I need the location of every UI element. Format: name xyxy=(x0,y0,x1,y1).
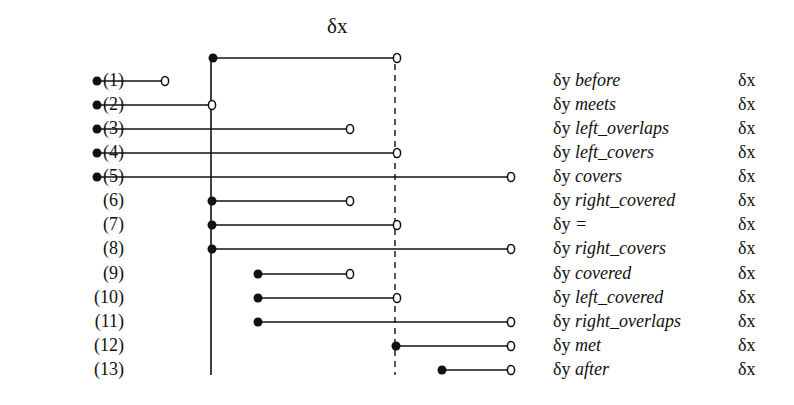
row-interval-closed-start-dot xyxy=(438,366,447,375)
interval-dx: δx xyxy=(738,214,755,234)
relation-operator: = xyxy=(575,214,587,234)
row-interval-closed-start-dot xyxy=(208,245,217,254)
row-interval-open-end-circle xyxy=(393,293,400,302)
row-interval-open-end-circle xyxy=(507,172,514,181)
interval-dy: δy xyxy=(553,94,570,114)
reference-interval-closed-start-dot xyxy=(209,54,218,63)
interval-dx: δx xyxy=(738,287,755,307)
interval-dx: δx xyxy=(738,118,755,138)
row-interval-open-end-circle xyxy=(507,365,514,374)
interval-dy: δy xyxy=(553,359,570,379)
relation-expression: δy left_covered xyxy=(553,287,663,307)
row-number: (1) xyxy=(40,70,124,90)
row-interval-closed-start-dot xyxy=(254,270,263,279)
relation-operator: right_covered xyxy=(575,190,675,210)
row-interval-open-end-circle xyxy=(507,317,514,326)
interval-dx: δx xyxy=(738,94,755,114)
row-interval-open-end-circle xyxy=(346,196,353,205)
relation-operator: right_overlaps xyxy=(575,311,681,331)
relation-operator: covers xyxy=(575,166,622,186)
row-interval-closed-start-dot xyxy=(208,221,217,230)
row-interval-open-end-circle xyxy=(346,124,353,133)
row-number: (2) xyxy=(40,94,124,114)
row-interval-closed-start-dot xyxy=(254,294,263,303)
relation-expression: δy met xyxy=(553,335,601,355)
relation-expression: δy covered xyxy=(553,263,631,283)
row-number: (11) xyxy=(40,311,124,331)
relation-operator: left_covers xyxy=(575,142,654,162)
relation-expression: δy before xyxy=(553,70,620,90)
reference-interval-title: δx xyxy=(327,14,347,39)
interval-dy: δy xyxy=(553,70,570,90)
relation-operator: left_covered xyxy=(575,287,663,307)
relation-operator: right_covers xyxy=(575,238,666,258)
interval-dx: δx xyxy=(738,335,755,355)
interval-dx: δx xyxy=(738,359,755,379)
relation-expression: δy meets xyxy=(553,94,616,114)
row-number: (3) xyxy=(40,118,124,138)
relation-expression: δy after xyxy=(553,359,609,379)
interval-dx: δx xyxy=(738,190,755,210)
row-interval-closed-start-dot xyxy=(254,318,263,327)
row-number: (4) xyxy=(40,142,124,162)
relation-expression: δy right_overlaps xyxy=(553,311,681,331)
relation-operator: after xyxy=(575,359,609,379)
row-interval-open-end-circle xyxy=(208,100,215,109)
row-number: (8) xyxy=(40,238,124,258)
interval-dx: δx xyxy=(738,238,755,258)
interval-dx: δx xyxy=(738,70,755,90)
interval-dy: δy xyxy=(553,263,570,283)
interval-dy: δy xyxy=(553,238,570,258)
interval-dy: δy xyxy=(553,335,570,355)
relation-operator: meets xyxy=(575,94,616,114)
interval-dx: δx xyxy=(738,166,755,186)
row-number: (9) xyxy=(40,263,124,283)
interval-dx: δx xyxy=(738,311,755,331)
interval-dx: δx xyxy=(738,142,755,162)
relation-expression: δy = xyxy=(553,214,587,234)
row-interval-open-end-circle xyxy=(507,341,514,350)
row-number: (5) xyxy=(40,166,124,186)
row-number: (6) xyxy=(40,190,124,210)
row-interval-open-end-circle xyxy=(346,269,353,278)
relation-expression: δy left_overlaps xyxy=(553,118,669,138)
relation-operator: met xyxy=(575,335,601,355)
interval-dy: δy xyxy=(553,190,570,210)
interval-dy: δy xyxy=(553,142,570,162)
row-interval-closed-start-dot xyxy=(208,197,217,206)
row-number: (10) xyxy=(40,287,124,307)
row-interval-open-end-circle xyxy=(161,76,168,85)
row-interval-closed-start-dot xyxy=(392,342,401,351)
relation-operator: before xyxy=(575,70,620,90)
relation-expression: δy covers xyxy=(553,166,622,186)
relation-operator: covered xyxy=(575,263,631,283)
reference-interval-open-end-circle xyxy=(393,53,400,62)
row-interval-open-end-circle xyxy=(507,244,514,253)
row-interval-open-end-circle xyxy=(393,220,400,229)
relation-expression: δy left_covers xyxy=(553,142,654,162)
relation-operator: left_overlaps xyxy=(575,118,669,138)
interval-dy: δy xyxy=(553,214,570,234)
interval-dy: δy xyxy=(553,118,570,138)
row-number: (7) xyxy=(40,214,124,234)
relation-expression: δy right_covers xyxy=(553,238,666,258)
row-number: (13) xyxy=(40,359,124,379)
interval-dy: δy xyxy=(553,287,570,307)
row-interval-open-end-circle xyxy=(393,148,400,157)
interval-dy: δy xyxy=(553,166,570,186)
interval-dy: δy xyxy=(553,311,570,331)
relation-expression: δy right_covered xyxy=(553,190,675,210)
row-number: (12) xyxy=(40,335,124,355)
interval-dx: δx xyxy=(738,263,755,283)
